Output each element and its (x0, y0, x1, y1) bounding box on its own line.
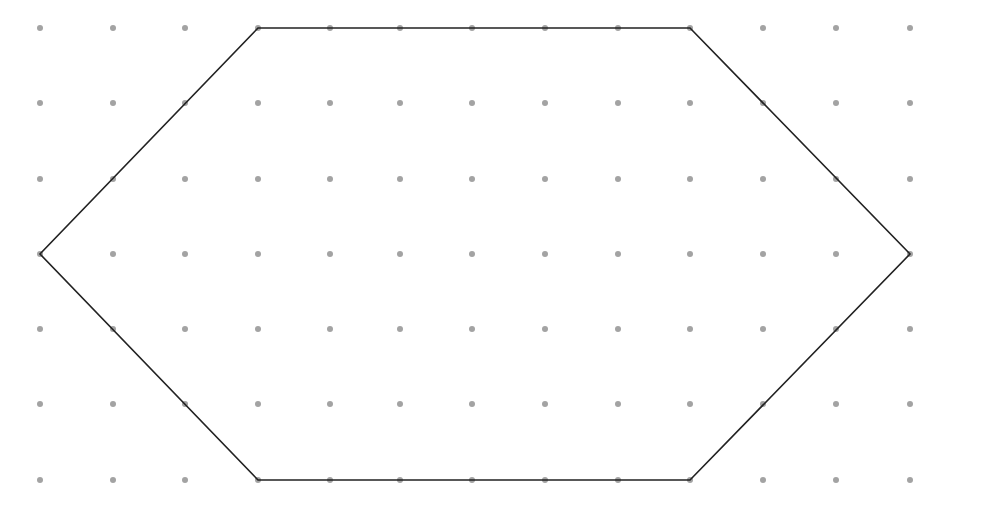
grid-dot (327, 326, 333, 332)
grid-dot (327, 176, 333, 182)
grid-dot (110, 477, 116, 483)
grid-dot (327, 100, 333, 106)
grid-dot (182, 326, 188, 332)
grid-dot (37, 25, 43, 31)
grid-dot (397, 401, 403, 407)
grid-dot (255, 100, 261, 106)
grid-dot (907, 326, 913, 332)
grid-dot (397, 251, 403, 257)
grid-dot (182, 477, 188, 483)
grid-dot (255, 251, 261, 257)
grid-dot (760, 176, 766, 182)
grid-dot (907, 25, 913, 31)
grid-dot (907, 401, 913, 407)
grid-dot (182, 251, 188, 257)
grid-dot (469, 251, 475, 257)
grid-dot (37, 100, 43, 106)
grid-dot (687, 176, 693, 182)
grid-dot (833, 100, 839, 106)
grid-dot (760, 326, 766, 332)
grid-dot (687, 100, 693, 106)
dot-grid (37, 25, 913, 483)
grid-dot (760, 251, 766, 257)
grid-dot (542, 326, 548, 332)
dot-grid-diagram (0, 0, 1001, 532)
grid-dot (615, 401, 621, 407)
grid-dot (469, 401, 475, 407)
grid-dot (37, 401, 43, 407)
grid-dot (615, 176, 621, 182)
grid-dot (182, 25, 188, 31)
grid-dot (397, 326, 403, 332)
grid-dot (542, 176, 548, 182)
grid-dot (833, 251, 839, 257)
grid-dot (255, 326, 261, 332)
grid-dot (469, 100, 475, 106)
grid-dot (833, 477, 839, 483)
grid-dot (542, 251, 548, 257)
grid-dot (110, 25, 116, 31)
grid-dot (833, 25, 839, 31)
grid-dot (255, 401, 261, 407)
grid-dot (760, 25, 766, 31)
grid-dot (110, 401, 116, 407)
grid-dot (37, 326, 43, 332)
grid-dot (182, 176, 188, 182)
grid-dot (615, 251, 621, 257)
grid-dot (687, 326, 693, 332)
grid-dot (37, 477, 43, 483)
grid-dot (37, 176, 43, 182)
grid-dot (542, 401, 548, 407)
grid-dot (907, 176, 913, 182)
grid-dot (907, 477, 913, 483)
grid-dot (327, 251, 333, 257)
grid-dot (469, 326, 475, 332)
grid-dot (397, 100, 403, 106)
grid-dot (615, 100, 621, 106)
grid-dot (615, 326, 621, 332)
grid-dot (542, 100, 548, 106)
grid-dot (833, 401, 839, 407)
grid-dot (255, 176, 261, 182)
grid-dot (469, 176, 475, 182)
grid-dot (397, 176, 403, 182)
grid-dot (687, 251, 693, 257)
grid-dot (760, 477, 766, 483)
grid-dot (110, 251, 116, 257)
grid-dot (327, 401, 333, 407)
grid-dot (907, 100, 913, 106)
grid-dot (110, 100, 116, 106)
grid-dot (687, 401, 693, 407)
